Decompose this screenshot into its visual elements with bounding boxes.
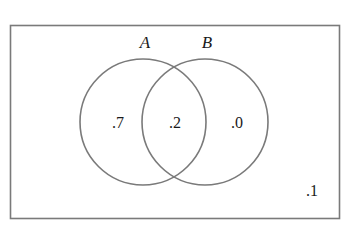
set-a-circle [80,59,206,185]
set-b-circle [142,59,268,185]
outside-value: .1 [306,182,318,199]
set-b-label: B [202,33,213,52]
a-only-value: .7 [112,114,124,131]
set-a-label: A [139,33,151,52]
venn-diagram: A B .7 .2 .0 .1 [0,0,358,230]
intersection-value: .2 [169,114,181,131]
b-only-value: .0 [231,114,243,131]
